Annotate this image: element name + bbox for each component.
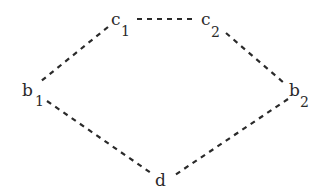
node-b1-subscript: 1: [35, 93, 44, 109]
node-c1-base: c: [111, 9, 121, 29]
edge-c2-b2: [226, 33, 284, 83]
node-b1-base: b: [22, 80, 33, 100]
edge-b1-d: [47, 101, 151, 173]
edge-b2-d: [172, 99, 288, 177]
node-c2-base: c: [201, 9, 211, 29]
node-d: d: [155, 170, 166, 190]
node-b1: b 1: [22, 80, 44, 109]
node-c1: c 1: [111, 9, 130, 39]
node-b2-subscript: 2: [300, 94, 309, 110]
node-c2-subscript: 2: [211, 24, 220, 40]
node-b2: b 2: [289, 80, 309, 110]
node-b2-base: b: [289, 80, 300, 100]
node-c2: c 2: [201, 9, 220, 40]
node-d-base: d: [155, 170, 166, 190]
edge-c1-b1: [40, 27, 108, 82]
hasse-diagram: c 1 c 2 b 1 b 2 d: [0, 0, 331, 195]
node-c1-subscript: 1: [121, 23, 130, 39]
